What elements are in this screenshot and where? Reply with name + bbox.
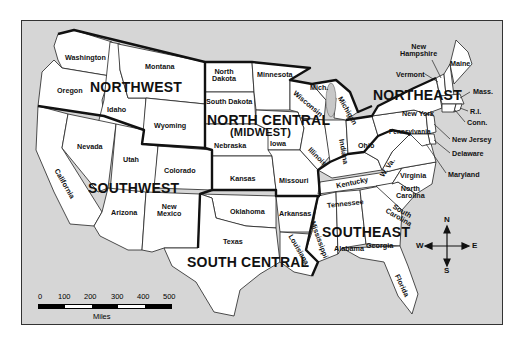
scale-tick-400: 400 (137, 292, 150, 301)
us-regions-map: NORTHWEST NORTH CENTRAL (MIDWEST) NORTHE… (0, 0, 520, 342)
scale-tick-300: 300 (111, 292, 124, 301)
compass-south: S (444, 267, 449, 275)
scale-unit: Miles (93, 312, 111, 321)
compass-north: N (444, 216, 450, 224)
scale-tick-100: 100 (58, 292, 71, 301)
compass-west: W (416, 242, 424, 250)
scale-tick-500: 500 (163, 292, 176, 301)
compass-rose: N S W E (412, 218, 482, 273)
leader-lines (0, 0, 520, 342)
compass-east: E (472, 242, 477, 250)
scale-tick-0: 0 (38, 292, 42, 301)
scale-bar-graphic (38, 304, 172, 309)
scale-tick-200: 200 (84, 292, 97, 301)
